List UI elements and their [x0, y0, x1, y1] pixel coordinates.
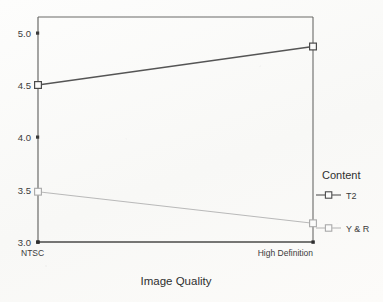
x-axis-category-labels: NTSC High Definition [21, 248, 313, 258]
y-tick-label-5.0: 5.0 [18, 28, 31, 39]
interaction-plot-figure: 5.0 4.5 4.0 3.5 3.0 NTSC High Definition [0, 0, 383, 302]
y-tick-label-4.0: 4.0 [18, 132, 31, 143]
x-tick-ntsc [36, 240, 39, 243]
legend: Content T2 Y & R [316, 169, 370, 234]
legend-label-t2: T2 [346, 191, 357, 201]
y-tick-label-4.5: 4.5 [18, 80, 31, 91]
y-tick-label-3.5: 3.5 [18, 185, 31, 196]
series-t2-point-high-definition [310, 43, 317, 50]
series-t2-point-ntsc [35, 82, 42, 89]
series-y-and-r-point-ntsc [35, 188, 42, 195]
y-tick-4.0 [36, 136, 39, 139]
y-axis-tick-labels: 5.0 4.5 4.0 3.5 3.0 [18, 28, 31, 248]
x-tick-high-definition [311, 240, 314, 243]
legend-marker-square-y-and-r [325, 225, 331, 231]
series-y-and-r [35, 188, 317, 226]
x-axis-title: Image Quality [141, 275, 212, 287]
legend-item-t2[interactable]: T2 [316, 191, 357, 201]
series-y-and-r-point-high-definition [310, 220, 317, 227]
series-t2 [35, 43, 317, 88]
y-tick-label-3.0: 3.0 [18, 237, 31, 248]
x-category-label-ntsc: NTSC [21, 248, 44, 258]
plot-frame [38, 17, 313, 242]
legend-label-y-and-r: Y & R [346, 224, 370, 234]
legend-marker-square-t2 [325, 192, 331, 198]
legend-item-y-and-r[interactable]: Y & R [316, 224, 370, 234]
chart-canvas: 5.0 4.5 4.0 3.5 3.0 NTSC High Definition [0, 0, 383, 302]
legend-title: Content [322, 169, 361, 181]
series-t2-line [38, 47, 313, 86]
series-y-and-r-line [38, 192, 313, 224]
x-category-label-high-definition: High Definition [258, 248, 314, 258]
y-tick-5.0 [36, 32, 39, 35]
